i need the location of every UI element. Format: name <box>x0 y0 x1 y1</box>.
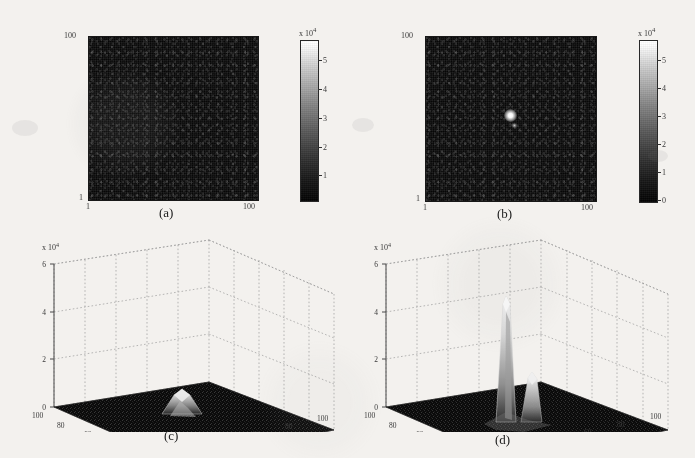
colorbar-exponent-power: 4 <box>313 26 316 33</box>
colorbar-tick <box>657 144 661 145</box>
panel-d-surface: 0 2 4 6 x 104 0 20 40 60 80 100 <box>356 232 686 432</box>
panel-d-xtick: 60 <box>584 428 592 432</box>
colorbar-tick-label: 1 <box>323 171 327 180</box>
colorbar-tick <box>318 89 322 90</box>
colorbar-texture <box>640 41 657 202</box>
colorbar-tick <box>318 118 322 119</box>
colorbar-tick <box>657 116 661 117</box>
panel-d-ztick: 2 <box>374 355 378 364</box>
panel-a-ytick-top: 100 <box>64 31 76 40</box>
panel-c-caption: (c) <box>164 428 178 444</box>
panel-c: 0 2 4 6 x 104 20 40 60 80 100 100 <box>14 232 344 432</box>
panel-d-xtick: 80 <box>617 420 625 429</box>
colorbar-tick <box>657 88 661 89</box>
target-blob <box>504 109 517 122</box>
panel-c-z-exponent: x 104 <box>42 242 59 252</box>
colorbar-tick <box>318 60 322 61</box>
colorbar-tick-label: 5 <box>323 56 327 65</box>
panel-c-ztick: 4 <box>42 308 46 317</box>
colorbar-tick-label: 4 <box>662 83 666 92</box>
panel-d-ytick: 100 <box>364 411 376 420</box>
panel-b-xtick-left: 1 <box>423 203 427 212</box>
panel-b-ytick-top: 100 <box>401 31 413 40</box>
colorbar-exponent: x 104 <box>299 26 316 38</box>
colorbar-tick <box>657 172 661 173</box>
panel-d-ztick: 4 <box>374 308 378 317</box>
panel-a-image <box>88 36 259 201</box>
colorbar-tick <box>318 175 322 176</box>
colorbar-tick <box>318 147 322 148</box>
colorbar-tick-label: 0 <box>662 196 666 205</box>
colorbar-tick-label: 2 <box>662 140 666 149</box>
panel-c-xtick: 80 <box>285 422 293 431</box>
colorbar-exponent: x 104 <box>638 26 655 38</box>
panel-d-z-exponent-base: x 10 <box>374 243 388 252</box>
colorbar-tick-label: 3 <box>662 111 666 120</box>
panel-c-xtick: 100 <box>317 414 329 423</box>
panel-d-xtick: 100 <box>650 412 662 421</box>
panel-b-caption: (b) <box>497 206 512 222</box>
panel-c-z-exponent-power: 4 <box>56 242 59 248</box>
colorbar-exponent-base: x 10 <box>638 29 652 38</box>
panel-a-colorbar: x 104 1 2 3 4 5 <box>300 40 319 202</box>
panel-c-z-exponent-base: x 10 <box>42 243 56 252</box>
colorbar-tick-label: 1 <box>662 168 666 177</box>
panel-a-ytick-bottom: 1 <box>79 193 83 202</box>
noise-field <box>89 37 258 200</box>
colorbar-tick-label: 4 <box>323 85 327 94</box>
colorbar-tick-label: 5 <box>662 55 666 64</box>
panel-a-caption: (a) <box>159 205 173 221</box>
panel-b-xtick-right: 100 <box>581 203 593 212</box>
colorbar-texture <box>301 41 318 201</box>
panel-d-ytick: 80 <box>389 421 397 430</box>
panel-b-ytick-bottom: 1 <box>416 194 420 203</box>
figure-root: 100 1 1 100 (a) x 104 1 2 3 4 5 100 1 <box>0 0 695 458</box>
panel-c-xtick: 60 <box>252 430 260 432</box>
panel-d: 0 2 4 6 x 104 0 20 40 60 80 100 <box>356 232 686 432</box>
colorbar-exponent-power: 4 <box>652 26 655 33</box>
panel-c-ztick: 2 <box>42 355 46 364</box>
colorbar-tick <box>657 200 661 201</box>
panel-c-ytick: 100 <box>32 411 44 420</box>
colorbar-tick <box>657 60 661 61</box>
target-blob-tail <box>511 123 518 128</box>
panel-d-caption: (d) <box>495 432 510 448</box>
panel-a-xtick-left: 1 <box>86 202 90 211</box>
colorbar-exponent-base: x 10 <box>299 29 313 38</box>
panel-b-image <box>425 36 597 202</box>
panel-d-z-exponent-power: 4 <box>388 242 391 248</box>
panel-d-z-exponent: x 104 <box>374 242 391 252</box>
colorbar-tick-label: 2 <box>323 142 327 151</box>
panel-a-xtick-right: 100 <box>243 202 255 211</box>
panel-c-ytick: 80 <box>57 421 65 430</box>
panel-c-ytick: 60 <box>84 430 92 432</box>
scan-smudge <box>12 120 38 136</box>
scan-smudge <box>352 118 374 132</box>
panel-c-surface: 0 2 4 6 x 104 20 40 60 80 100 100 <box>14 232 344 432</box>
panel-b-colorbar: x 104 0 1 2 3 4 5 <box>639 40 658 203</box>
colorbar-tick-label: 3 <box>323 113 327 122</box>
panel-d-ytick: 60 <box>416 430 424 432</box>
panel-d-ztick: 6 <box>374 260 378 269</box>
panel-c-ztick: 6 <box>42 260 46 269</box>
